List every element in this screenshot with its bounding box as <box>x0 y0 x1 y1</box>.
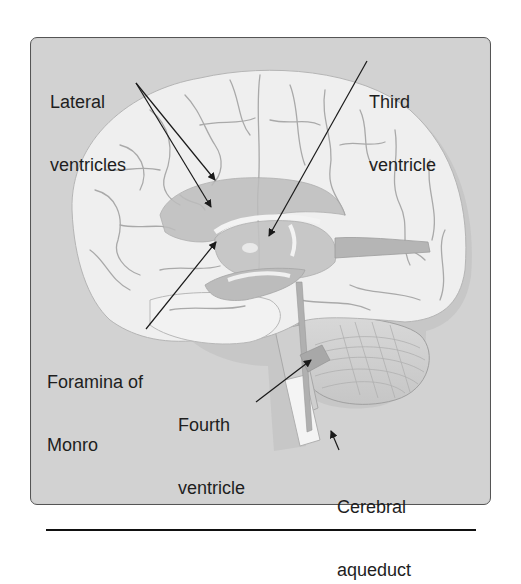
label-line: aqueduct <box>337 560 411 581</box>
label-line: Lateral <box>50 92 126 113</box>
label-cerebral-aqueduct: Cerebral aqueduct <box>337 455 411 584</box>
label-lateral-ventricles: Lateral ventricles <box>50 50 126 218</box>
label-line: Monro <box>47 435 143 456</box>
label-fourth-ventricle: Fourth ventricle <box>178 373 245 541</box>
label-line: Third <box>369 92 436 113</box>
label-line: ventricle <box>178 478 245 499</box>
bottom-rule <box>46 529 476 531</box>
label-third-ventricle: Third ventricle <box>369 50 436 218</box>
label-line: ventricle <box>369 155 436 176</box>
label-foramina-of-monro: Foramina of Monro <box>47 330 143 498</box>
label-line: ventricles <box>50 155 126 176</box>
label-line: Cerebral <box>337 497 411 518</box>
label-line: Foramina of <box>47 372 143 393</box>
arrow-cerebral-aqueduct <box>331 431 339 450</box>
label-line: Fourth <box>178 415 245 436</box>
